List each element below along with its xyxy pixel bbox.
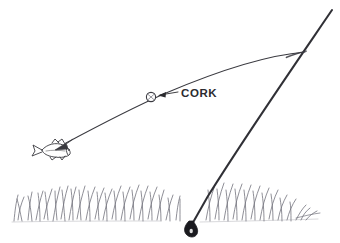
fishing-rod-cork-illustration: CORK <box>0 0 340 243</box>
reel-knob <box>185 221 198 237</box>
grass-clump-left <box>14 186 85 221</box>
grass-clump-mid-right <box>176 183 242 221</box>
label-pointer <box>158 92 178 98</box>
grass-band <box>12 183 320 222</box>
sketch-canvas <box>0 0 340 243</box>
cork-label: CORK <box>181 87 217 99</box>
grass-clump-mid-left <box>86 186 130 221</box>
line-arrowhead <box>55 139 73 150</box>
grass-clump-mid <box>130 185 173 221</box>
cork-float <box>146 92 155 101</box>
